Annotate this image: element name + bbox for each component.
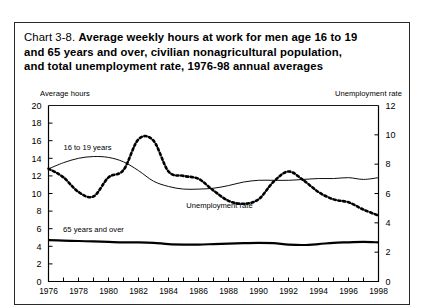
y2-tick-label: 2 — [386, 247, 391, 257]
y-tick-label: 2 — [36, 259, 41, 269]
y-tick-label: 6 — [36, 224, 41, 234]
x-tick-label: 1976 — [39, 286, 58, 296]
plot-area: 0246810121416182002468101219761978198019… — [0, 0, 424, 307]
annotation-unemployment-rate: Unemployment rate — [186, 201, 252, 210]
x-tick-label: 1982 — [129, 286, 148, 296]
x-tick-label: 1990 — [249, 286, 268, 296]
y2-tick-label: 6 — [386, 189, 391, 199]
y-tick-label: 14 — [31, 154, 41, 164]
y-tick-label: 12 — [31, 171, 41, 181]
x-tick-label: 1992 — [279, 286, 298, 296]
x-tick-label: 1994 — [309, 286, 328, 296]
y2-tick-label: 8 — [386, 159, 391, 169]
x-tick-label: 1984 — [159, 286, 178, 296]
y2-tick-label: 4 — [386, 218, 391, 228]
annotation-16-to-19: 16 to 19 years — [63, 143, 111, 152]
y-tick-label: 20 — [31, 101, 41, 111]
y-tick-label: 16 — [31, 136, 41, 146]
y-tick-label: 18 — [31, 118, 41, 128]
chart-figure: Chart 3-8. Average weekly hours at work … — [0, 0, 424, 307]
x-tick-label: 1996 — [339, 286, 358, 296]
x-tick-label: 1980 — [99, 286, 118, 296]
y-tick-label: 4 — [36, 242, 41, 252]
annotation-65-and-over: 65 years and over — [63, 225, 124, 234]
plot-svg: 0246810121416182002468101219761978198019… — [0, 0, 424, 307]
y-tick-label: 10 — [31, 189, 41, 199]
y2-tick-label: 12 — [386, 101, 396, 111]
x-tick-label: 1986 — [189, 286, 208, 296]
series-line — [49, 240, 379, 245]
y-tick-label: 8 — [36, 206, 41, 216]
series-line — [49, 156, 379, 189]
x-tick-label: 1988 — [219, 286, 238, 296]
x-tick-label: 1998 — [369, 286, 388, 296]
y2-tick-label: 10 — [386, 130, 396, 140]
x-tick-label: 1978 — [69, 286, 88, 296]
